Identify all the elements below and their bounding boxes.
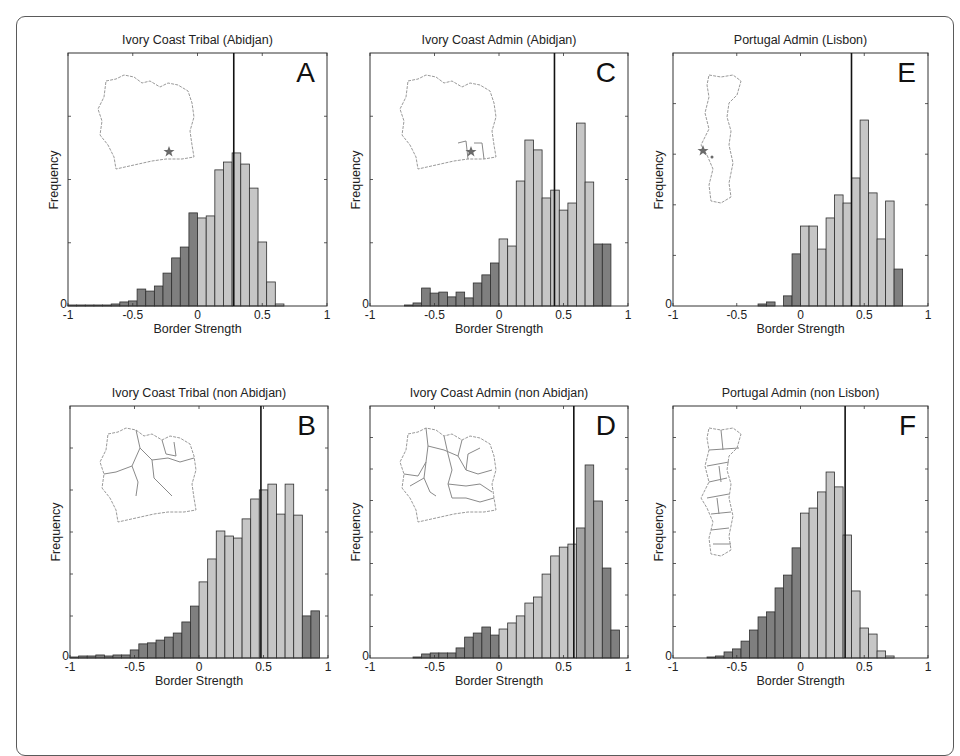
histogram-bar [860, 628, 869, 658]
x-tick-label: 1 [925, 660, 932, 674]
histogram-bar [792, 548, 801, 658]
x-tick-label: 0.5 [856, 660, 873, 674]
histogram-bar [835, 487, 844, 658]
x-tick-label: 0 [797, 660, 804, 674]
x-axis-label: Border Strength [756, 674, 844, 688]
histogram-bar [809, 508, 818, 658]
histogram-bar [818, 492, 827, 658]
histogram-bar [801, 513, 810, 658]
histogram-bar [750, 630, 759, 658]
histogram-bar [784, 575, 793, 658]
y-tick-label: 0 [665, 649, 672, 663]
histogram-bar [775, 588, 784, 658]
histogram-bar [869, 634, 878, 658]
y-axis-label: Frequency [652, 502, 666, 561]
panel-title: Portugal Admin (non Lisbon) [722, 386, 880, 400]
histogram-bar [724, 652, 733, 658]
histogram-bar [741, 641, 750, 658]
x-tick-label: -0.5 [726, 660, 747, 674]
inset-map-icon [701, 428, 741, 556]
histogram-bar [877, 651, 886, 658]
histogram-bar [758, 617, 767, 658]
panel-letter: F [899, 410, 916, 442]
histogram-bar [852, 591, 861, 658]
histogram-bar [767, 612, 776, 658]
histogram-bar [826, 472, 835, 658]
